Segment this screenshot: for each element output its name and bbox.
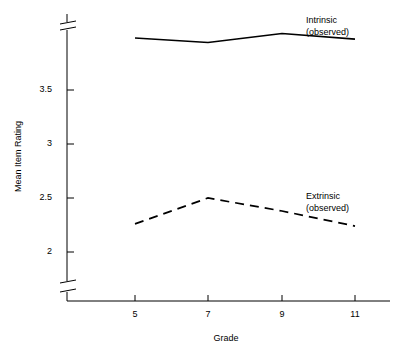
series-label-intrinsic-line1: Intrinsic <box>306 14 349 26</box>
y-tick-label-2.5: 2.5 <box>26 193 52 202</box>
series-label-extrinsic: Extrinsic (observed) <box>306 190 349 214</box>
x-tick-label-7: 7 <box>188 310 228 319</box>
x-axis-title: Grade <box>196 334 256 343</box>
series-label-extrinsic-line1: Extrinsic <box>306 190 349 202</box>
y-axis-break-bottom-mark-1 <box>60 280 76 283</box>
chart-figure: 3.5 3 2.5 2 5 7 9 11 Mean Item Rating Gr… <box>0 0 400 355</box>
y-axis-title: Mean Item Rating <box>14 117 23 197</box>
x-tick-label-9: 9 <box>262 310 302 319</box>
y-axis-break-top-mark-1 <box>60 21 76 24</box>
series-label-extrinsic-line2: (observed) <box>306 202 349 214</box>
series-label-intrinsic-line2: (observed) <box>306 26 349 38</box>
y-tick-label-2: 2 <box>26 247 52 256</box>
y-axis-break-top-mark-2 <box>60 27 76 30</box>
series-label-intrinsic: Intrinsic (observed) <box>306 14 349 38</box>
y-tick-label-3: 3 <box>26 139 52 148</box>
x-tick-label-11: 11 <box>335 310 375 319</box>
x-tick-label-5: 5 <box>115 310 155 319</box>
y-axis-break-bottom-mark-2 <box>60 289 76 292</box>
chart-plot-area <box>0 0 400 355</box>
y-tick-label-3.5: 3.5 <box>26 85 52 94</box>
